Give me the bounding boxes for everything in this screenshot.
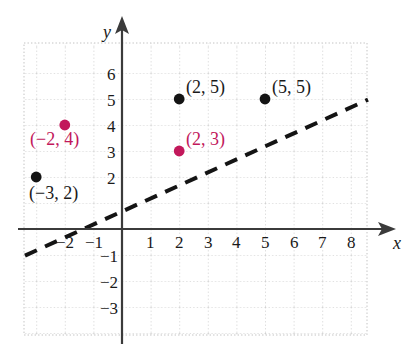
x-tick-label-6: 6 [290,234,299,251]
coordinate-plane-figure: y x −2 −1 1 2 3 4 5 6 7 8 6 5 4 3 2 −1 −… [0,0,417,348]
y-tick-label-3: 3 [107,144,116,161]
y-tick-label-2: 2 [107,170,116,187]
y-axis-label: y [103,23,111,41]
data-point-2-5[interactable] [174,94,185,105]
graph-canvas [0,0,417,348]
x-tick-label-3: 3 [204,234,213,251]
y-tick-label-5: 5 [107,92,116,109]
point-label-5-5: (5, 5) [272,78,311,96]
point-label-2-5: (2, 5) [186,78,225,96]
y-tick-label-6: 6 [107,66,116,83]
x-axis-label: x [393,234,401,252]
x-tick-label-5: 5 [261,234,270,251]
data-point-neg3-2[interactable] [31,172,42,183]
x-tick-label-2: 2 [175,234,184,251]
x-tick-label-8: 8 [347,234,356,251]
y-tick-label--2: −2 [100,274,118,291]
x-tick-label-1: 1 [146,234,155,251]
x-tick-label-4: 4 [232,234,241,251]
point-label-2-3: (2, 3) [186,130,225,148]
x-tick-label-7: 7 [318,234,327,251]
y-tick-label--1: −1 [100,248,118,265]
data-point-2-3[interactable] [174,146,185,157]
point-label--3-2: (−3, 2) [29,184,78,202]
point-label--2-4: (−2, 4) [30,130,79,148]
y-tick-label--3: −3 [100,300,118,317]
data-point-5-5[interactable] [260,94,271,105]
x-tick-label--2: −2 [56,234,74,251]
y-tick-label-4: 4 [107,118,116,135]
